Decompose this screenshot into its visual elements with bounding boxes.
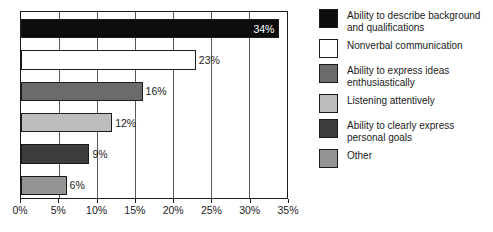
bar[interactable]: 9% (21, 144, 89, 163)
bar[interactable]: 6% (21, 176, 67, 195)
x-axis-tick-label: 15% (124, 205, 145, 216)
bar-chart-figure: 34%23%16%12%9%6% 0%5%10%15%20%25%30%35% … (0, 0, 493, 232)
x-axis: 0%5%10%15%20%25%30%35% (20, 199, 288, 225)
x-axis-tick-label: 0% (12, 205, 27, 216)
bar-value-label: 23% (199, 55, 220, 66)
legend-label: Listening attentively (347, 94, 435, 107)
x-axis-tick-label: 25% (201, 205, 222, 216)
bar[interactable]: 23% (21, 50, 196, 69)
x-axis-tick (288, 199, 289, 203)
x-axis-tick (250, 199, 251, 203)
bar-value-label: 9% (92, 149, 107, 160)
x-axis-tick (135, 199, 136, 203)
legend-swatch-icon (319, 94, 338, 113)
bar-value-label: 16% (146, 86, 167, 97)
legend-swatch-icon (319, 149, 338, 168)
x-axis-tick-label: 5% (51, 205, 66, 216)
x-axis-tick (58, 199, 59, 203)
x-axis-tick (97, 199, 98, 203)
bar-series: 34%23%16%12%9%6% (21, 12, 287, 198)
legend-swatch-icon (319, 119, 338, 138)
bar-row: 6% (21, 176, 287, 195)
legend-swatch-icon (319, 9, 338, 28)
plot-area: 34%23%16%12%9%6% (20, 11, 288, 199)
legend-swatch-icon (319, 64, 338, 83)
legend-label: Ability to express ideas enthusiasticall… (347, 64, 449, 88)
legend-label: Ability to clearly express personal goal… (347, 119, 454, 143)
bar-value-label: 12% (115, 117, 136, 128)
legend-item[interactable]: Ability to describe background and quali… (319, 9, 489, 33)
legend-item[interactable]: Ability to clearly express personal goal… (319, 119, 489, 143)
x-axis-tick (20, 199, 21, 203)
bar[interactable]: 34% (21, 19, 279, 38)
bar-value-label: 6% (70, 180, 85, 191)
legend-item[interactable]: Ability to express ideas enthusiasticall… (319, 64, 489, 88)
legend-item[interactable]: Nonverbal communication (319, 39, 489, 58)
bar-row: 23% (21, 50, 287, 69)
bar[interactable]: 12% (21, 113, 112, 132)
bar-row: 34% (21, 19, 287, 38)
bar-row: 16% (21, 82, 287, 101)
x-axis-tick-label: 10% (86, 205, 107, 216)
legend-label: Ability to describe background and quali… (347, 9, 480, 33)
chart-legend: Ability to describe background and quali… (319, 9, 489, 174)
legend-item[interactable]: Other (319, 149, 489, 168)
x-axis-tick-label: 30% (239, 205, 260, 216)
x-axis-tick (173, 199, 174, 203)
x-axis-tick-label: 20% (163, 205, 184, 216)
bar-row: 9% (21, 144, 287, 163)
x-axis-tick (211, 199, 212, 203)
bar-value-label: 34% (253, 23, 274, 34)
legend-label: Nonverbal communication (347, 39, 463, 52)
legend-swatch-icon (319, 39, 338, 58)
bar-row: 12% (21, 113, 287, 132)
bar[interactable]: 16% (21, 82, 143, 101)
legend-label: Other (347, 149, 372, 162)
legend-item[interactable]: Listening attentively (319, 94, 489, 113)
x-axis-tick-label: 35% (277, 205, 298, 216)
